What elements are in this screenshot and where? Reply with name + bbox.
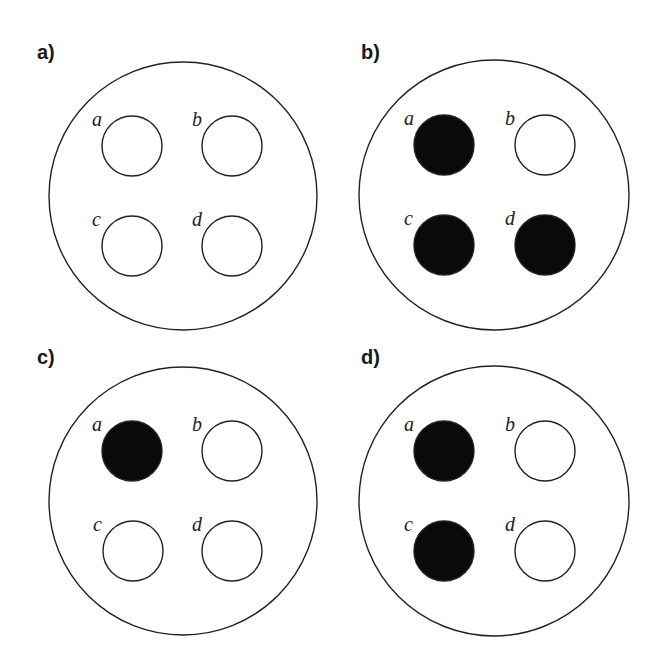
hole-a-filled — [414, 421, 474, 481]
panel-label: d) — [361, 346, 380, 368]
outer-circle — [49, 367, 317, 635]
panel-label: c) — [37, 346, 55, 368]
panel-b: b)abcd — [359, 41, 629, 330]
hole-label: d — [192, 208, 203, 230]
hole-label: a — [404, 413, 414, 435]
hole-label: b — [192, 108, 202, 130]
hole-b-empty — [515, 115, 575, 175]
hole-label: a — [92, 108, 102, 130]
hole-label: b — [505, 413, 515, 435]
hole-label: b — [192, 413, 202, 435]
panel-label: a) — [37, 41, 55, 63]
hole-label: d — [505, 513, 516, 535]
panel-d: d)abcd — [359, 346, 629, 636]
hole-d-filled — [515, 215, 575, 275]
hole-label: c — [404, 513, 413, 535]
panel-c: c)abcd — [37, 346, 317, 635]
hole-a-empty — [102, 116, 162, 176]
hole-d-empty — [515, 521, 575, 581]
hole-a-filled — [102, 421, 162, 481]
figure: a)abcdb)abcdc)abcdd)abcd — [0, 0, 665, 668]
hole-c-empty — [102, 216, 162, 276]
outer-circle — [359, 366, 629, 636]
hole-label: d — [192, 513, 203, 535]
hole-b-empty — [202, 116, 262, 176]
panel-a: a)abcd — [37, 41, 317, 330]
hole-label: d — [505, 207, 516, 229]
hole-c-filled — [414, 521, 474, 581]
outer-circle — [359, 60, 629, 330]
panel-label: b) — [361, 41, 380, 63]
hole-label: c — [404, 207, 413, 229]
hole-label: a — [92, 413, 102, 435]
hole-c-filled — [414, 215, 474, 275]
hole-d-empty — [202, 216, 262, 276]
outer-circle — [49, 62, 317, 330]
hole-label: a — [404, 107, 414, 129]
hole-label: c — [92, 208, 101, 230]
hole-b-empty — [515, 421, 575, 481]
hole-label: b — [505, 107, 515, 129]
hole-b-empty — [202, 421, 262, 481]
hole-label: c — [93, 513, 102, 535]
hole-a-filled — [414, 115, 474, 175]
hole-d-empty — [202, 521, 262, 581]
hole-c-empty — [103, 521, 163, 581]
